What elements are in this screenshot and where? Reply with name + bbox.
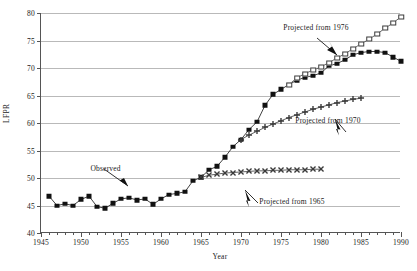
annotation-label: Projected from 1965	[259, 197, 324, 206]
x-tick-label: 1955	[113, 238, 129, 247]
open-square-marker	[350, 46, 356, 51]
x-tick-label: 1980	[313, 238, 329, 247]
y-tick-label: 50	[27, 174, 35, 183]
x-tick-label: 1965	[193, 238, 209, 247]
open-square-marker	[310, 68, 316, 73]
open-square-marker	[382, 26, 388, 31]
open-square-marker	[374, 31, 380, 36]
annotation-label: Projected from 1970	[295, 116, 360, 125]
x-tick-label: 1950	[73, 238, 89, 247]
y-axis-title: LFPR	[2, 103, 11, 123]
open-square-marker	[398, 14, 404, 19]
y-tick-label: 40	[27, 229, 35, 238]
y-tick-label: 45	[27, 201, 35, 210]
annotation-label: Observed	[90, 164, 120, 173]
open-square-marker	[294, 75, 300, 80]
x-tick-major	[401, 232, 402, 237]
x-tick-label: 1945	[33, 238, 49, 247]
open-square-marker	[342, 51, 348, 56]
x-tick-label: 1960	[153, 238, 169, 247]
y-tick-label: 55	[27, 146, 35, 155]
open-square-marker	[326, 60, 332, 65]
open-square-marker	[334, 56, 340, 61]
lfpr-projection-chart: LFPR 404550556065707580 1945195019551960…	[0, 0, 417, 271]
open-square-marker	[302, 71, 308, 76]
x-tick-label: 1970	[233, 238, 249, 247]
open-square-marker	[390, 20, 396, 25]
x-tick-label: 1985	[353, 238, 369, 247]
y-tick-label: 80	[27, 9, 35, 18]
open-square-marker	[318, 64, 324, 69]
x-tick-label: 1975	[273, 238, 289, 247]
x-axis-title: Year	[40, 252, 400, 261]
open-square-marker	[366, 37, 372, 42]
y-tick-label: 75	[27, 36, 35, 45]
open-square-marker	[358, 41, 364, 46]
y-tick-label: 65	[27, 91, 35, 100]
y-tick-label: 60	[27, 119, 35, 128]
y-tick-label: 70	[27, 64, 35, 73]
open-square-marker	[286, 82, 292, 87]
annotation-label: Projected from 1976	[283, 23, 348, 32]
x-tick-label: 1990	[393, 238, 409, 247]
